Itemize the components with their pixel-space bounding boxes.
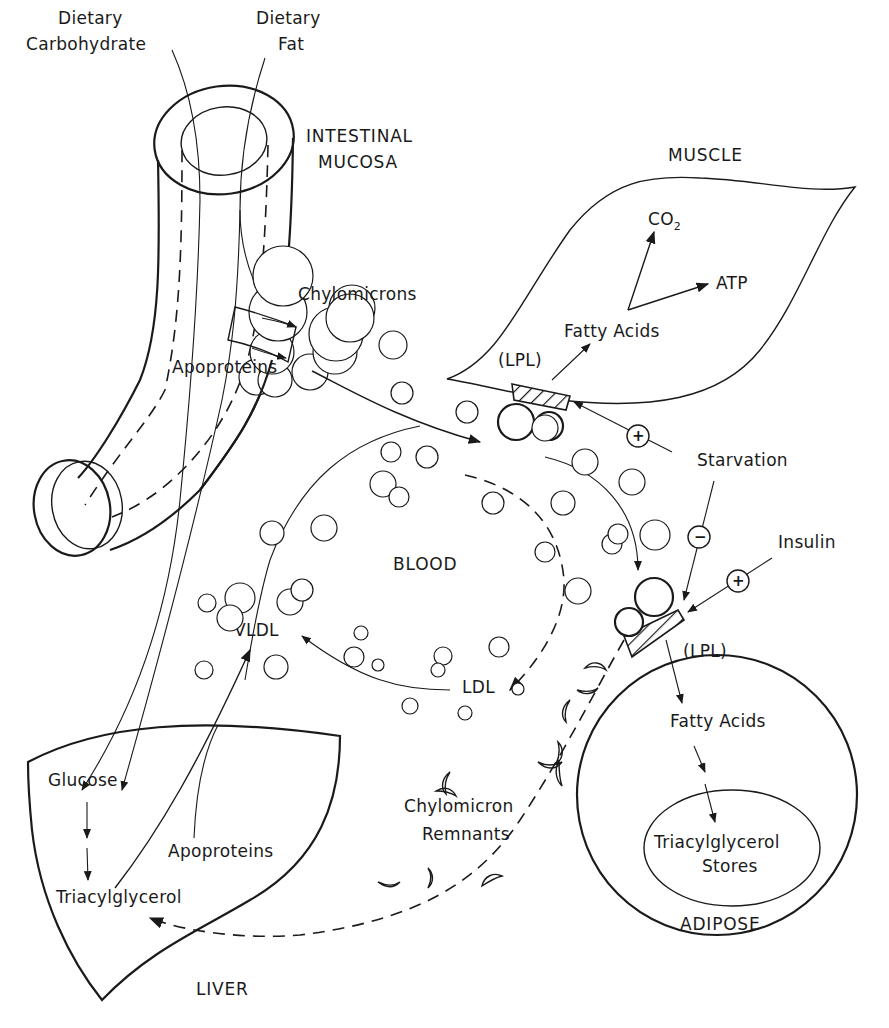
adipose-chylomicron-large (635, 578, 673, 616)
label-tag-stores-2: Stores (702, 856, 758, 876)
label-intestine-apoproteins: Apoproteins (172, 357, 277, 377)
label-co2: CO2 (648, 209, 681, 233)
label-mucosa: MUCOSA (318, 152, 398, 172)
svg-text:−: − (694, 528, 707, 546)
lipoprotein-metabolism-diagram: Dietary Carbohydrate Dietary Fat INTESTI… (0, 0, 889, 1028)
label-chylomicron-remnants-1: Chylomicron (404, 796, 514, 816)
fat-to-liver-arrow (122, 210, 240, 790)
muscle-lpl-to-fatty-acids-arrow (552, 344, 590, 380)
remnants-to-liver-dashed-arrow (150, 640, 624, 936)
label-liver-triacylglycerol: Triacylglycerol (55, 887, 182, 907)
label-dietary-carbohydrate-1: Dietary (58, 8, 123, 28)
svg-text:+: + (732, 572, 745, 590)
blood-boundary-curve (245, 426, 420, 680)
label-starvation: Starvation (697, 450, 788, 470)
label-adipose-fatty-acids: Fatty Acids (670, 711, 766, 731)
starvation-to-muscle-lpl-arrow (574, 402, 672, 452)
label-liver: LIVER (196, 979, 249, 999)
label-intestinal: INTESTINAL (306, 126, 413, 146)
label-ldl: LDL (462, 677, 495, 697)
label-muscle-fatty-acids: Fatty Acids (564, 321, 660, 341)
label-chylomicrons: Chylomicrons (298, 284, 417, 304)
label-dietary-fat-1: Dietary (256, 8, 321, 28)
label-glucose: Glucose (48, 770, 118, 790)
label-blood: BLOOD (393, 554, 457, 574)
fatty-acids-to-stores-arrow-1 (694, 746, 705, 772)
glucose-arrow-2 (87, 848, 88, 880)
label-dietary-carbohydrate-2: Carbohydrate (26, 34, 146, 54)
label-insulin: Insulin (778, 532, 836, 552)
chylomicron-to-muscle-arrow (312, 371, 480, 442)
label-liver-apoproteins: Apoproteins (168, 841, 273, 861)
fatty-acids-to-co2-arrow (628, 232, 654, 310)
svg-text:+: + (632, 427, 645, 445)
label-muscle: MUSCLE (668, 145, 743, 165)
adipose-chylomicron-small (615, 608, 643, 636)
vldl-to-ldl-dashed-arrow (465, 475, 564, 690)
label-chylomicron-remnants-2: Remnants (422, 824, 510, 844)
muscle-chylomicron-large (498, 404, 534, 440)
fatty-acids-to-atp-arrow (628, 284, 708, 310)
fatty-acids-to-stores-arrow-2 (705, 784, 715, 822)
label-dietary-fat-2: Fat (278, 34, 304, 54)
label-adipose-lpl: (LPL) (683, 641, 727, 661)
liver-organ (28, 725, 340, 1000)
label-adipose: ADIPOSE (680, 914, 761, 934)
adipose-cell (577, 655, 857, 935)
adipose-lpl-to-fatty-acids-arrow (666, 640, 682, 703)
label-atp: ATP (716, 273, 748, 293)
label-muscle-lpl: (LPL) (498, 350, 542, 370)
label-tag-stores-1: Triacylglycerol (653, 832, 780, 852)
